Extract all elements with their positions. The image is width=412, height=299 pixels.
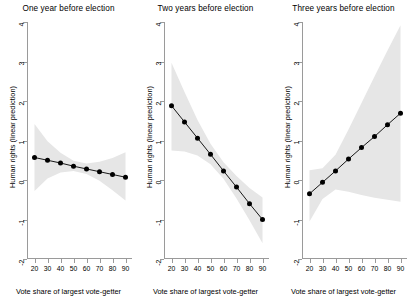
y-axis-tick-label: -1	[293, 220, 300, 241]
data-point-marker	[346, 157, 351, 162]
data-point-marker	[208, 152, 213, 157]
plot-svg	[165, 22, 269, 259]
y-axis-label: Human rights (linear prediction)	[146, 77, 154, 197]
data-point-marker	[260, 217, 265, 222]
plot-svg	[28, 22, 132, 259]
x-axis-label: Vote share of largest vote-getter	[275, 287, 412, 296]
data-point-marker	[221, 168, 226, 173]
x-axis-tick-mark	[87, 259, 88, 263]
panel-title: One year before election	[0, 4, 137, 14]
data-point-marker	[234, 185, 239, 190]
y-axis-tick-label: -2	[18, 259, 25, 280]
x-axis-tick-mark	[74, 259, 75, 263]
data-point-marker	[307, 191, 312, 196]
y-axis-tick-label: 1	[18, 141, 25, 162]
y-axis-tick-label: 0	[293, 180, 300, 201]
x-axis-tick-mark	[237, 259, 238, 263]
data-point-marker	[32, 155, 37, 160]
data-point-marker	[97, 169, 102, 174]
data-point-marker	[169, 103, 174, 108]
x-axis-tick-mark	[375, 259, 376, 263]
y-axis-tick-label: 0	[18, 180, 25, 201]
x-axis-tick-mark	[349, 259, 350, 263]
plot-area	[303, 22, 407, 259]
x-axis-tick-mark	[100, 259, 101, 263]
data-point-marker	[71, 164, 76, 169]
panel-title: Two years before election	[137, 4, 274, 14]
confidence-interval-band	[172, 63, 263, 244]
x-axis-tick-mark	[323, 259, 324, 263]
y-axis-tick-label: 1	[293, 141, 300, 162]
data-point-marker	[372, 134, 377, 139]
data-point-marker	[110, 172, 115, 177]
data-point-marker	[320, 180, 325, 185]
y-axis-tick-label: 1	[155, 141, 162, 162]
data-point-marker	[359, 145, 364, 150]
data-point-marker	[385, 122, 390, 127]
data-point-marker	[247, 201, 252, 206]
y-axis-tick-label: 3	[155, 62, 162, 83]
data-point-marker	[84, 166, 89, 171]
x-axis-tick-mark	[185, 259, 186, 263]
data-point-marker	[195, 136, 200, 141]
data-point-marker	[333, 168, 338, 173]
y-axis-label: Human rights (linear prediction)	[9, 77, 17, 197]
y-axis-tick-label: -1	[155, 220, 162, 241]
plot-area	[165, 22, 269, 259]
y-axis-tick-label: 3	[293, 62, 300, 83]
y-axis-tick-label: 3	[18, 62, 25, 83]
data-point-marker	[182, 119, 187, 124]
data-point-marker	[58, 161, 63, 166]
plot-area	[28, 22, 132, 259]
y-axis-tick-label: 0	[155, 180, 162, 201]
x-axis-tick-mark	[61, 259, 62, 263]
plot-svg	[303, 22, 407, 259]
y-axis-tick-label: -1	[18, 220, 25, 241]
x-axis-tick-mark	[224, 259, 225, 263]
x-axis-tick-mark	[172, 259, 173, 263]
data-point-marker	[123, 175, 128, 180]
x-axis-tick-mark	[211, 259, 212, 263]
panel-title: Three years before election	[275, 4, 412, 14]
x-axis-tick-mark	[388, 259, 389, 263]
data-point-marker	[398, 111, 403, 116]
x-axis-tick-mark	[263, 259, 264, 263]
x-axis-tick-mark	[310, 259, 311, 263]
x-axis-tick-mark	[48, 259, 49, 263]
panel-one-year-before-election: One year before election Human rights (l…	[0, 0, 137, 299]
y-axis-tick-label: 2	[18, 101, 25, 122]
y-axis-tick-label: -2	[155, 259, 162, 280]
y-axis-label: Human rights (linear prediction)	[284, 77, 292, 197]
x-axis-tick-label: 90	[393, 265, 409, 273]
y-axis-tick-label: 4	[293, 22, 300, 43]
y-axis-tick-label: -2	[293, 259, 300, 280]
x-axis-tick-mark	[113, 259, 114, 263]
x-axis-tick-mark	[250, 259, 251, 263]
x-axis-label: Vote share of largest vote-getter	[0, 287, 137, 296]
panel-three-years-before-election: Three years before election Human rights…	[275, 0, 412, 299]
y-axis-tick-label: 4	[18, 22, 25, 43]
x-axis-tick-mark	[35, 259, 36, 263]
x-axis-tick-mark	[126, 259, 127, 263]
x-axis-tick-mark	[336, 259, 337, 263]
y-axis-tick-label: 4	[155, 22, 162, 43]
figure-panel-group: One year before election Human rights (l…	[0, 0, 412, 299]
x-axis-tick-label: 90	[118, 265, 134, 273]
x-axis-tick-mark	[362, 259, 363, 263]
x-axis-tick-mark	[198, 259, 199, 263]
y-axis-tick-label: 2	[293, 101, 300, 122]
x-axis-label: Vote share of largest vote-getter	[137, 287, 274, 296]
x-axis-tick-mark	[401, 259, 402, 263]
x-axis-tick-label: 90	[255, 265, 271, 273]
y-axis-tick-label: 2	[155, 101, 162, 122]
data-point-marker	[45, 158, 50, 163]
panel-two-years-before-election: Two years before election Human rights (…	[137, 0, 274, 299]
